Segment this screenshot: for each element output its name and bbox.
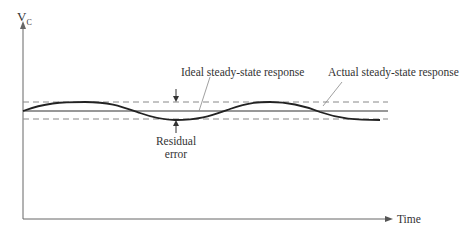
y-axis-label: VC: [17, 10, 32, 29]
x-axis-arrow-icon: [385, 216, 393, 222]
x-axis-label: Time: [397, 213, 421, 226]
ideal-leader-line: [199, 77, 210, 111]
ideal-response-label: Ideal steady-state response: [181, 66, 304, 79]
diagram-canvas: [0, 0, 466, 236]
actual-leader-line: [323, 82, 342, 106]
actual-response-label: Actual steady-state response: [328, 66, 459, 79]
residual-arrowhead-top-icon: [173, 96, 179, 102]
residual-error-label: Residual error: [152, 135, 200, 161]
residual-line1: Residual: [152, 135, 200, 148]
residual-line2: error: [152, 148, 200, 161]
residual-arrowhead-bottom-icon: [173, 120, 179, 126]
